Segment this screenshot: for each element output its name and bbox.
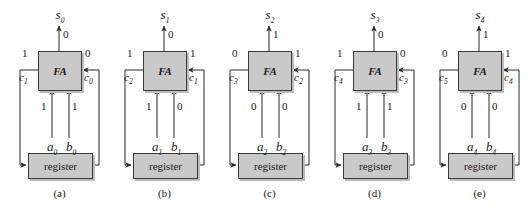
operand-a-value: 1 [41, 101, 47, 112]
carry-in-value: 0 [85, 48, 91, 59]
register-label: register [359, 160, 392, 172]
full-adder-label: FA [473, 65, 487, 77]
operand-b-value: 0 [282, 101, 288, 112]
operand-b-label: b4 [486, 140, 496, 156]
register-box: register [238, 153, 303, 179]
operand-a-label: a1 [152, 140, 162, 156]
full-adder-box: FA [248, 51, 292, 91]
register-label: register [254, 160, 287, 172]
carry-in-label: c2 [294, 72, 303, 86]
carry-out-value: 1 [22, 48, 28, 59]
register-label: register [44, 160, 77, 172]
sum-signal-label: s0 [56, 8, 65, 24]
register-box: register [343, 153, 408, 179]
cell-caption: (c) [263, 188, 275, 199]
operand-b-value: 1 [72, 101, 78, 112]
sum-value: 0 [63, 29, 69, 40]
register-box: register [28, 153, 93, 179]
adder-cell-a: FAregisters001c10c011a0b0(a) [6, 0, 112, 208]
carry-in-value: 1 [295, 48, 301, 59]
cell-caption: (d) [368, 188, 381, 199]
carry-out-label: c4 [334, 72, 343, 86]
carry-out-value: 1 [127, 48, 133, 59]
cell-caption: (e) [473, 188, 485, 199]
carry-in-label: c1 [189, 72, 198, 86]
carry-in-label: c3 [399, 72, 408, 86]
sum-value: 0 [168, 29, 174, 40]
operand-b-value: 0 [492, 101, 498, 112]
sum-signal-label: s4 [476, 8, 485, 24]
full-adder-label: FA [263, 65, 277, 77]
operand-b-value: 1 [387, 101, 393, 112]
full-adder-label: FA [368, 65, 382, 77]
carry-in-value: 1 [505, 48, 511, 59]
operand-a-value: 1 [146, 101, 152, 112]
carry-out-label: c2 [124, 72, 133, 86]
operand-a-value: 0 [461, 101, 467, 112]
sum-value: 1 [273, 29, 279, 40]
full-adder-label: FA [158, 65, 172, 77]
sum-value: 0 [378, 29, 384, 40]
carry-in-label: c4 [504, 72, 513, 86]
operand-a-label: a4 [467, 140, 477, 156]
carry-in-value: 0 [400, 48, 406, 59]
carry-out-value: 0 [232, 48, 238, 59]
operand-a-label: a0 [47, 140, 57, 156]
operand-a-label: a3 [362, 140, 372, 156]
sum-signal-label: s3 [371, 8, 380, 24]
full-adder-box: FA [143, 51, 187, 91]
sum-signal-label: s1 [161, 8, 170, 24]
register-label: register [464, 160, 497, 172]
carry-out-value: 0 [442, 48, 448, 59]
sum-value: 1 [483, 29, 489, 40]
full-adder-box: FA [38, 51, 82, 91]
full-adder-label: FA [53, 65, 67, 77]
full-adder-box: FA [353, 51, 397, 91]
operand-b-label: b2 [276, 140, 286, 156]
operand-b-label: b0 [66, 140, 76, 156]
operand-b-label: b3 [381, 140, 391, 156]
carry-out-label: c3 [229, 72, 238, 86]
sum-signal-label: s2 [266, 8, 275, 24]
adder-cell-e: FAregisters410c51c400a4b4(e) [426, 0, 530, 208]
operand-a-value: 1 [356, 101, 362, 112]
carry-out-label: c5 [439, 72, 448, 86]
cell-caption: (a) [53, 188, 65, 199]
adder-cell-b: FAregisters101c21c110a1b1(b) [111, 0, 217, 208]
carry-out-value: 1 [337, 48, 343, 59]
carry-in-label: c0 [84, 72, 93, 86]
operand-a-value: 0 [251, 101, 257, 112]
carry-out-label: c1 [19, 72, 28, 86]
full-adder-box: FA [458, 51, 502, 91]
register-label: register [149, 160, 182, 172]
operand-b-value: 0 [177, 101, 183, 112]
adder-cell-c: FAregisters210c31c200a2b2(c) [216, 0, 322, 208]
register-box: register [448, 153, 513, 179]
cell-caption: (b) [158, 188, 171, 199]
adder-cell-d: FAregisters301c40c311a3b3(d) [321, 0, 427, 208]
carry-in-value: 1 [190, 48, 196, 59]
operand-a-label: a2 [257, 140, 267, 156]
register-box: register [133, 153, 198, 179]
operand-b-label: b1 [171, 140, 181, 156]
figure-canvas: FAregisters001c10c011a0b0(a)FAregisters1… [0, 0, 530, 208]
